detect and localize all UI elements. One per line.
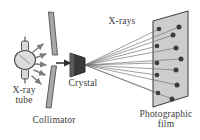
diffraction-spot bbox=[170, 97, 175, 102]
tube-upper-stem bbox=[22, 41, 29, 51]
diffraction-spot bbox=[171, 33, 176, 38]
diffraction-spot bbox=[175, 83, 180, 88]
diffraction-spot bbox=[179, 57, 184, 62]
label-xrays: X-rays bbox=[98, 17, 146, 27]
diffracted-ray bbox=[85, 29, 159, 65]
collimator-upper-bar bbox=[49, 12, 58, 55]
diffracted-ray bbox=[85, 46, 157, 65]
label-crystal: Crystal bbox=[56, 79, 110, 89]
crystal bbox=[70, 53, 85, 77]
diffraction-spot bbox=[155, 61, 160, 66]
tube-lower-stem bbox=[22, 69, 29, 79]
xray-emission-arrow bbox=[33, 44, 43, 52]
xray-diffraction-figure: X-ray tube Collimator Crystal X-rays Pho… bbox=[0, 0, 200, 140]
diffraction-spot bbox=[174, 46, 179, 51]
collimator-lower-bar bbox=[46, 66, 57, 108]
label-collimator: Collimator bbox=[16, 116, 92, 126]
label-photographic-film: Photographic film bbox=[133, 110, 199, 129]
diffraction-spot bbox=[174, 68, 179, 73]
diffraction-spot bbox=[155, 73, 160, 78]
xray-emission-arrow bbox=[35, 54, 46, 58]
xray-emission-arrow bbox=[34, 70, 45, 75]
diffraction-spot bbox=[177, 25, 182, 30]
diffracted-ray bbox=[85, 65, 157, 75]
diffraction-spot bbox=[157, 27, 162, 32]
diffraction-spot bbox=[155, 44, 160, 49]
xray-emission-arrow bbox=[32, 76, 41, 84]
xray-emission-arrow bbox=[35, 64, 46, 65]
crystal-face-highlight bbox=[70, 53, 74, 77]
label-xray-tube: X-ray tube bbox=[2, 86, 46, 105]
diffraction-spot bbox=[156, 91, 161, 96]
collimator bbox=[46, 12, 58, 108]
